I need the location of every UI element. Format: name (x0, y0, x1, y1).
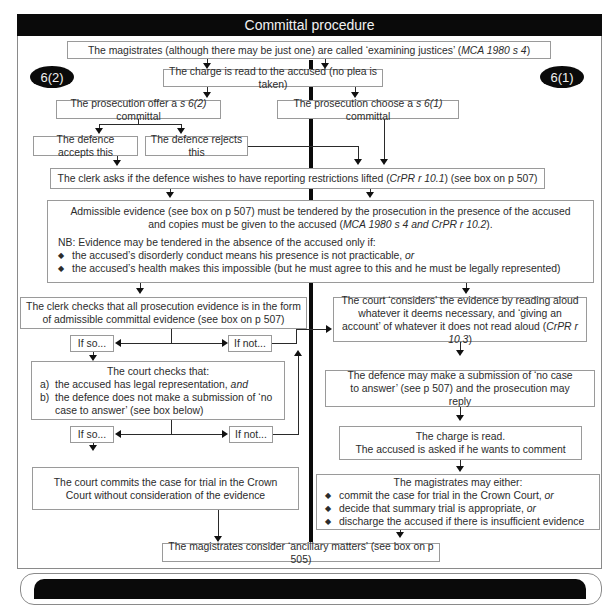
arrow-left-icon (115, 430, 121, 438)
arrow-down-icon (456, 466, 464, 472)
node-no-case-submission: The defence may make a submission of ‘no… (325, 370, 595, 407)
node-court-commits: The court commits the case for trial in … (32, 467, 299, 510)
badge-6-2: 6(2) (30, 66, 74, 88)
bullet-item: ◆decide that summary trial is appropriat… (325, 502, 536, 515)
central-divider (309, 60, 313, 542)
arrow-down-icon (380, 159, 388, 165)
arrow-right-icon (326, 325, 332, 333)
diamond-bullet-icon: ◆ (325, 515, 339, 528)
node-prosecution-choose: The prosecution choose a s 6(1) committa… (277, 100, 459, 119)
node-clerk-asks-reporting: The clerk asks if the defence wishes to … (50, 168, 545, 189)
arrow-left-icon (115, 339, 121, 347)
node-ancillary-matters: The magistrates consider ‘ancillary matt… (162, 543, 440, 562)
node-defence-accepts: The defence accepts this (33, 136, 138, 156)
node-charge-read-again: The charge is read. The accused is asked… (339, 426, 582, 460)
next-section-header (34, 579, 586, 599)
bullet-item: ◆commit the case for trial in the Crown … (325, 489, 554, 502)
diamond-bullet-icon: ◆ (325, 489, 339, 502)
bullet-item: ◆the accused’s health makes this impossi… (58, 262, 560, 275)
node-admissible-evidence: Admissible evidence (see box on p 507) m… (47, 200, 594, 283)
node-defence-rejects: The defence rejects this (145, 136, 248, 156)
if-so-2: If so... (70, 426, 114, 443)
list-item: b)the defence does not make a submission… (40, 391, 276, 417)
arrow-down-icon (366, 192, 374, 198)
bullet-item: ◆the accused’s disorderly conduct means … (58, 249, 414, 262)
badge-6-1: 6(1) (540, 66, 584, 88)
arrow-down-icon (354, 159, 362, 165)
if-so-1: If so... (70, 335, 114, 352)
if-not-2: If not... (229, 426, 273, 443)
arrow-down-icon (89, 445, 97, 451)
arrow-down-icon (456, 415, 464, 421)
node-examining-justices: The magistrates (although there may be j… (67, 41, 551, 59)
diagram-title: Committal procedure (17, 14, 602, 36)
diamond-bullet-icon: ◆ (58, 249, 72, 262)
arrow-down-icon (113, 160, 121, 166)
node-clerk-checks: The clerk checks that all prosecution ev… (20, 297, 307, 329)
node-court-considers: The court ‘considers’ the evidence by re… (333, 297, 587, 342)
arrow-down-icon (136, 288, 144, 294)
arrow-down-icon (456, 350, 464, 356)
if-not-1: If not... (228, 335, 272, 352)
arrow-up-icon (294, 350, 302, 356)
list-item: a)the accused has legal representation, … (40, 378, 248, 391)
bullet-item: ◆discharge the accused if there is insuf… (325, 515, 584, 528)
node-charge-read: The charge is read to the accused (no pl… (163, 69, 383, 87)
arrow-right-icon (222, 430, 228, 438)
arrow-down-icon (166, 192, 174, 198)
diamond-bullet-icon: ◆ (58, 262, 72, 275)
arrow-down-icon (396, 532, 404, 538)
node-court-checks: The court checks that: a)the accused has… (31, 361, 285, 420)
nb-note: NB: Evidence may be tendered in the abse… (58, 236, 376, 249)
node-prosecution-offer: The prosecution offer a s 6(2) committal (56, 100, 221, 119)
diamond-bullet-icon: ◆ (325, 502, 339, 515)
node-magistrates-either: The magistrates may either: ◆commit the … (316, 474, 600, 530)
